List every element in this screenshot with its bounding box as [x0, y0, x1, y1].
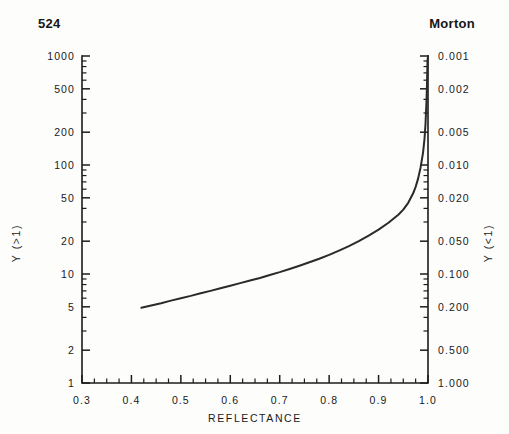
tick-label: 0.005	[438, 126, 470, 138]
page-canvas: 524 Morton 0.30.40.50.60.70.80.91.0 1251…	[0, 0, 509, 434]
tick-label: 0.7	[271, 394, 289, 406]
tick-label: 5	[68, 301, 75, 313]
tick-label: 1.000	[438, 377, 470, 389]
x-axis-tick-labels: 0.30.40.50.60.70.80.91.0	[73, 394, 437, 406]
y-right-tick-labels: 1.0000.5000.2000.1000.0500.0200.0100.005…	[438, 50, 470, 389]
y-axis-title-right: Y (<1)	[482, 224, 494, 262]
tick-label: 2	[68, 344, 75, 356]
tick-label: 0.020	[438, 192, 470, 204]
tick-label: 20	[61, 235, 75, 247]
tick-label: 10	[61, 268, 75, 280]
tick-label: 0.010	[438, 159, 470, 171]
tick-label: 1000	[47, 50, 75, 62]
tick-label: 200	[54, 126, 75, 138]
tick-label: 0.8	[320, 394, 338, 406]
x-axis-title: REFLECTANCE	[208, 412, 302, 424]
tick-label: 0.100	[438, 268, 470, 280]
tick-label: 500	[54, 83, 75, 95]
tick-label: 0.001	[438, 50, 470, 62]
data-curve	[141, 56, 428, 308]
y-axis-title-left: Y (>1)	[10, 224, 22, 262]
tick-label: 100	[54, 159, 75, 171]
tick-label: 1.0	[419, 394, 437, 406]
tick-label: 0.500	[438, 344, 470, 356]
tick-label: 0.4	[122, 394, 140, 406]
tick-label: 0.6	[221, 394, 239, 406]
tick-label: 0.200	[438, 301, 470, 313]
tick-label: 0.002	[438, 83, 470, 95]
tick-label: 50	[61, 192, 75, 204]
tick-label: 1	[68, 377, 75, 389]
reflectance-log-chart: 0.30.40.50.60.70.80.91.0 125102050100200…	[0, 0, 509, 434]
y-left-major-ticks	[82, 56, 90, 383]
tick-label: 0.3	[73, 394, 91, 406]
tick-label: 0.050	[438, 235, 470, 247]
tick-label: 0.9	[370, 394, 388, 406]
tick-label: 0.5	[172, 394, 190, 406]
y-left-tick-labels: 1251020501002005001000	[47, 50, 75, 389]
plot-frame	[82, 56, 428, 383]
